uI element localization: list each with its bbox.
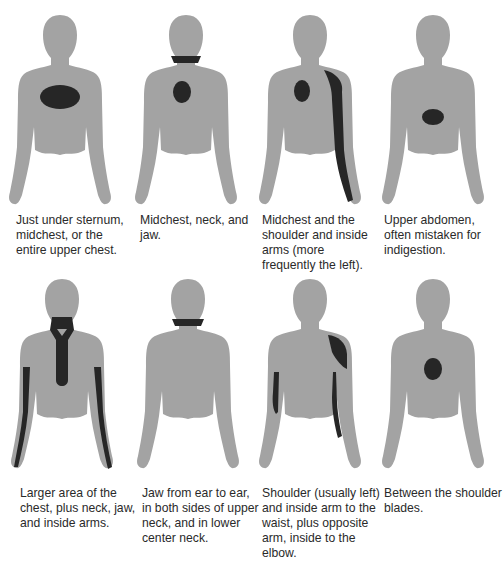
figure-7: Shoulder (usually left) and inside arm t… bbox=[252, 272, 378, 554]
pain-region-between-shoulder-blades bbox=[424, 358, 442, 380]
figure-2: Midchest, neck, and jaw. bbox=[126, 0, 252, 250]
body-silhouette-icon bbox=[126, 272, 252, 482]
caption: Just under sternum, midchest, or the ent… bbox=[16, 213, 134, 258]
figure-3: Midchest and the shoulder and inside arm… bbox=[252, 0, 378, 250]
figure-8: Between the shoulder blades. bbox=[378, 272, 503, 554]
figure-1: Just under sternum, midchest, or the ent… bbox=[0, 0, 126, 250]
caption: Between the shoulder blades. bbox=[384, 486, 502, 516]
pain-region-midchest bbox=[294, 80, 310, 102]
caption: Larger area of the chest, plus neck, jaw… bbox=[20, 486, 138, 531]
body-silhouette-icon bbox=[126, 0, 252, 210]
caption: Upper abdomen, often mistaken for indige… bbox=[384, 213, 502, 258]
caption: Midchest, neck, and jaw. bbox=[140, 213, 258, 243]
body-silhouette-icon bbox=[378, 272, 503, 482]
pain-region-neck bbox=[171, 56, 201, 63]
pain-region-upper-chest bbox=[40, 85, 80, 109]
body-silhouette-icon bbox=[0, 272, 126, 482]
figure-5: Larger area of the chest, plus neck, jaw… bbox=[0, 272, 126, 554]
body-silhouette-icon bbox=[0, 0, 126, 210]
pain-region-upper-abdomen bbox=[422, 109, 444, 125]
pain-region-midchest bbox=[173, 81, 191, 103]
caption: Shoulder (usually left) and inside arm t… bbox=[262, 486, 380, 561]
caption: Midchest and the shoulder and inside arm… bbox=[262, 213, 380, 273]
pain-region-jaw-neck bbox=[172, 319, 204, 326]
body-silhouette-icon bbox=[252, 0, 378, 210]
figure-6: Jaw from ear to ear, in both sides of up… bbox=[126, 272, 252, 554]
caption: Jaw from ear to ear, in both sides of up… bbox=[142, 486, 260, 546]
figure-4: Upper abdomen, often mistaken for indige… bbox=[378, 0, 503, 250]
body-silhouette-icon bbox=[378, 0, 503, 210]
body-silhouette-icon bbox=[252, 272, 378, 482]
